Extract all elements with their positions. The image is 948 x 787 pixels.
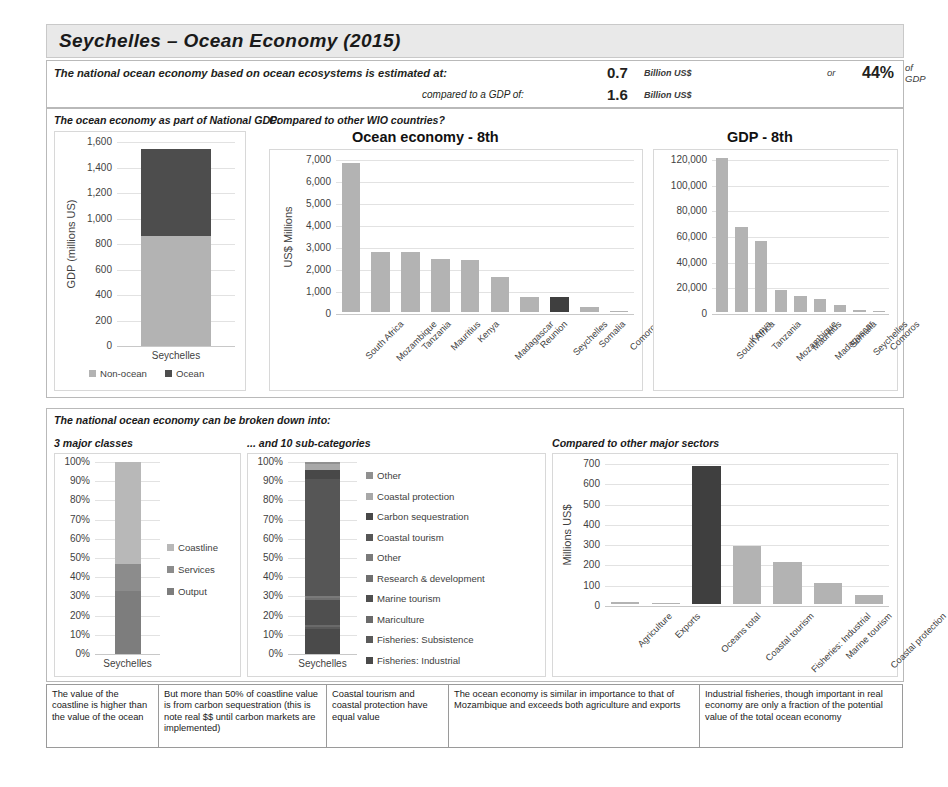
stack-segment <box>305 464 340 470</box>
y-axis-tick-label: 0 <box>270 308 331 319</box>
page-title-bar: Seychelles – Ocean Economy (2015) <box>46 24 904 58</box>
y-axis-tick-label: 80% <box>55 494 90 505</box>
bar <box>371 252 389 312</box>
chart-gdp-stack: 02004006008001,0001,2001,4001,600GDP (mi… <box>54 131 246 391</box>
bar <box>855 595 883 604</box>
stack-segment <box>305 470 340 480</box>
legend-item: Other <box>366 470 401 481</box>
y-axis-tick-label: 90% <box>55 475 90 486</box>
y-axis-tick-label: 1,600 <box>55 136 112 147</box>
stack-segment <box>305 600 340 625</box>
legend-label: Coastal tourism <box>377 532 444 543</box>
legend-swatch <box>366 493 373 500</box>
stack-segment <box>305 462 340 464</box>
gridline <box>336 160 634 161</box>
y-axis-tick-label: 30% <box>55 590 90 601</box>
bar <box>773 562 801 604</box>
x-axis-category-label: Seychelles <box>83 658 173 669</box>
bottom-col3-header: Compared to other major sectors <box>552 437 719 449</box>
legend-item: Services <box>167 564 215 575</box>
stack-segment <box>305 479 340 596</box>
legend-label: Marine tourism <box>377 593 440 604</box>
x-axis-category-label: Exports <box>673 611 702 640</box>
gridline <box>336 204 634 205</box>
legend-swatch <box>366 472 373 479</box>
y-axis-tick-label: 1,400 <box>55 162 112 173</box>
y-axis-tick-label: 60% <box>55 533 90 544</box>
legend-label: Fisheries: Industrial <box>377 655 460 666</box>
y-axis-tick-label: 40% <box>248 571 283 582</box>
chart-gdp-wio: 020,00040,00060,00080,000100,000120,000S… <box>653 149 898 391</box>
stack-segment <box>305 629 340 654</box>
note-cell: But more than 50% of coastline value is … <box>159 685 327 747</box>
stack-segment <box>305 625 340 627</box>
y-axis-tick-label: 2,000 <box>270 264 331 275</box>
y-axis-tick-label: 600 <box>55 264 112 275</box>
gridline <box>605 525 889 526</box>
y-axis-tick-label: 800 <box>55 238 112 249</box>
y-axis-tick-label: 40,000 <box>654 257 707 268</box>
bar <box>716 158 728 312</box>
y-axis-tick-label: 6,000 <box>270 176 331 187</box>
bar <box>775 290 787 312</box>
page-title: Seychelles – Ocean Economy (2015) <box>47 30 401 52</box>
legend-swatch <box>165 370 172 377</box>
bar <box>853 310 865 312</box>
legend-swatch <box>366 616 373 623</box>
bar <box>431 259 449 312</box>
legend-item: Carbon sequestration <box>366 511 469 522</box>
top-panel: The ocean economy as part of National GD… <box>46 108 904 398</box>
x-axis-category-label: Coastal protection <box>888 611 947 670</box>
y-axis-tick-label: 5,000 <box>270 198 331 209</box>
bottom-col1-header: 3 major classes <box>54 437 133 449</box>
y-axis-tick-label: 50% <box>248 552 283 563</box>
summary-row-2: compared to a GDP of: 1.6 Billion US$ <box>47 83 903 106</box>
y-axis-tick-label: 3,000 <box>270 242 331 253</box>
summary-line2-unit: Billion US$ <box>644 90 692 100</box>
stack-segment <box>141 236 212 346</box>
axis-baseline <box>288 654 357 655</box>
gridline <box>605 464 889 465</box>
y-axis-tick-label: 700 <box>553 458 600 469</box>
stacked-bar <box>141 142 212 346</box>
gridline <box>336 226 634 227</box>
bar <box>461 260 479 312</box>
summary-or-label: or <box>827 67 835 78</box>
gridline <box>336 248 634 249</box>
bottom-panel: The national ocean economy can be broken… <box>46 408 904 682</box>
summary-percent-value: 44% <box>862 64 894 82</box>
bar <box>342 163 360 312</box>
legend-swatch <box>366 595 373 602</box>
legend-swatch <box>366 554 373 561</box>
note-cell: The value of the coastline is higher tha… <box>47 685 159 747</box>
chart-ten-sub-categories: 0%10%20%30%40%50%60%70%80%90%100%Seychel… <box>247 453 546 677</box>
bar <box>733 546 761 604</box>
bar <box>814 583 842 604</box>
axis-baseline <box>336 314 634 315</box>
y-axis-tick-label: 70% <box>248 514 283 525</box>
summary-line1-value: 0.7 <box>607 64 628 81</box>
gridline <box>712 160 889 161</box>
y-axis-tick-label: 20% <box>248 610 283 621</box>
y-axis-tick-label: 10% <box>55 629 90 640</box>
y-axis-tick-label: 1,000 <box>270 286 331 297</box>
y-axis-tick-label: 80,000 <box>654 205 707 216</box>
bar <box>755 241 767 312</box>
x-axis-category-label: Oceans total <box>720 611 764 655</box>
legend-label: Other <box>377 552 401 563</box>
summary-box: The national ocean economy based on ocea… <box>46 60 904 108</box>
chart-three-major-classes: 0%10%20%30%40%50%60%70%80%90%100%Seychel… <box>54 453 241 677</box>
bar <box>692 466 720 604</box>
summary-percent-unit: of GDP <box>905 62 926 84</box>
gridline <box>712 211 889 212</box>
axis-baseline <box>117 346 235 347</box>
y-axis-tick-label: 0 <box>553 600 600 611</box>
y-axis-tick-label: 7,000 <box>270 154 331 165</box>
bar <box>735 227 747 312</box>
chart-ocean-economy-wio: 01,0002,0003,0004,0005,0006,0007,000US$ … <box>269 149 643 391</box>
y-axis-tick-label: 60% <box>248 533 283 544</box>
y-axis-tick-label: 400 <box>55 289 112 300</box>
y-axis-tick-label: 200 <box>55 315 112 326</box>
legend-item: Non-ocean <box>89 368 147 379</box>
y-axis-tick-label: 20,000 <box>654 282 707 293</box>
